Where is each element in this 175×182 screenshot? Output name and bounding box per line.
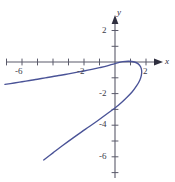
graph-figure: -6 -2 2 2 -2 -4 -6 y x (0, 0, 175, 182)
y-tick-label-neg2: -2 (99, 89, 107, 98)
parabola-curve (5, 61, 142, 160)
cartesian-plot (0, 0, 175, 182)
y-axis-label: y (117, 8, 121, 17)
x-axis-label: x (165, 57, 169, 66)
y-tick-label-pos2: 2 (102, 26, 107, 35)
x-tick-label-neg2: -2 (77, 67, 85, 76)
x-axis-arrowhead (154, 59, 163, 66)
x-tick-label-pos2: 2 (143, 67, 148, 76)
y-tick-label-neg4: -4 (99, 120, 107, 129)
y-tick-label-neg6: -6 (99, 152, 107, 161)
x-tick-label-neg6: -6 (15, 67, 23, 76)
